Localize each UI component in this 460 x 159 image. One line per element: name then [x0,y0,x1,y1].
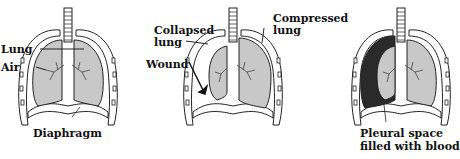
label-wound: Wound [146,59,188,70]
label-collapsed-2: lung [154,37,182,48]
panel-normal [19,8,118,125]
label-compressed-2: lung [273,25,301,36]
label-diaphragm: Diaphragm [33,128,102,139]
panel-hemothorax [352,8,451,125]
label-pleural-2: filled with blood [360,141,460,152]
label-compressed-1: Compressed [273,13,348,24]
label-collapsed-1: Collapsed [154,25,214,36]
label-lung: Lung [1,44,32,55]
label-air: Air [1,62,20,73]
label-pleural-1: Pleural space [360,128,443,139]
